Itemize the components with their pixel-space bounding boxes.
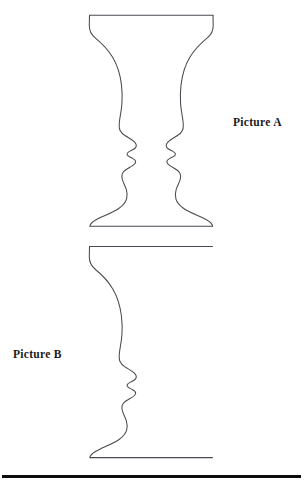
- picture-a-left-profile: [89, 15, 136, 226]
- picture-a-figure: [89, 15, 213, 226]
- illusion-figure-canvas: [0, 0, 304, 489]
- picture-b-left-profile: [89, 246, 136, 457]
- picture-b-figure: [89, 246, 212, 457]
- picture-b-label: Picture B: [13, 349, 62, 361]
- picture-a-label: Picture A: [233, 117, 282, 129]
- picture-a-right-profile: [166, 15, 213, 226]
